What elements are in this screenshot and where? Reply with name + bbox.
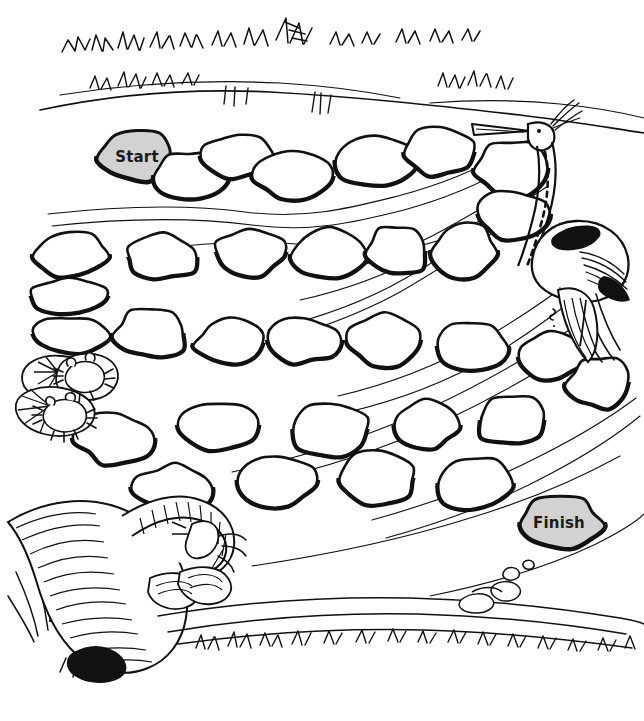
stone-shape xyxy=(438,323,509,370)
stone-shape xyxy=(480,396,544,442)
stepping-stone xyxy=(339,450,414,505)
stepping-stone xyxy=(404,127,475,176)
stepping-stone xyxy=(480,396,544,442)
worksheet-scene: StartFinish xyxy=(0,0,644,721)
start-label: Start xyxy=(115,148,159,166)
stepping-stone xyxy=(33,318,111,353)
stepping-stone xyxy=(178,404,258,451)
stone-shape xyxy=(293,404,368,457)
stepping-stone xyxy=(293,404,368,457)
stepping-stone xyxy=(438,323,509,370)
stepping-stone xyxy=(366,227,425,273)
stepping-stone-path-illustration: StartFinish xyxy=(0,0,644,721)
finish-label: Finish xyxy=(533,514,585,532)
